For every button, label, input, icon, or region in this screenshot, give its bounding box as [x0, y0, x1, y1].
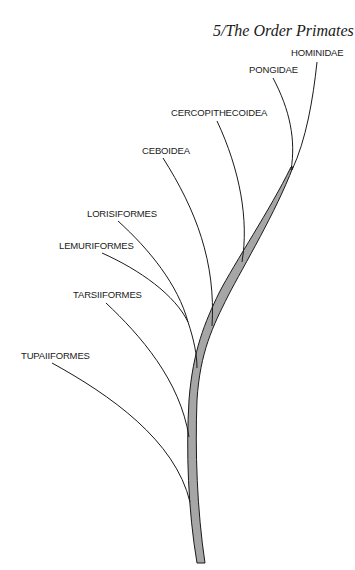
branch-tarsiiformes — [106, 303, 189, 437]
branch-pongidae — [273, 78, 293, 170]
label-lorisiformes: LORISIFORMES — [87, 208, 157, 220]
label-tupaiiformes: TUPAIIFORMES — [21, 350, 90, 362]
label-tarsiiformes: TARSIIFORMES — [73, 289, 142, 301]
book-page: 5/The Order Primates HOMINIDAE PONGIDAE … — [0, 0, 355, 570]
main-trunk — [188, 167, 293, 563]
label-hominidae: HOMINIDAE — [291, 47, 344, 59]
branch-tupaiiformes — [52, 363, 190, 502]
branch-lorisiformes — [118, 221, 188, 322]
label-lemuriformes: LEMURIFORMES — [59, 240, 134, 252]
branch-hominidae — [292, 62, 317, 170]
branch-ceboidea — [163, 158, 213, 326]
branch-cercopithecoidea — [217, 121, 244, 262]
label-pongidae: PONGIDAE — [249, 64, 298, 76]
label-cercopithecoidea: CERCOPITHECOIDEA — [171, 107, 267, 119]
label-ceboidea: CEBOIDEA — [142, 145, 190, 157]
primate-phylogenetic-tree — [0, 0, 355, 570]
